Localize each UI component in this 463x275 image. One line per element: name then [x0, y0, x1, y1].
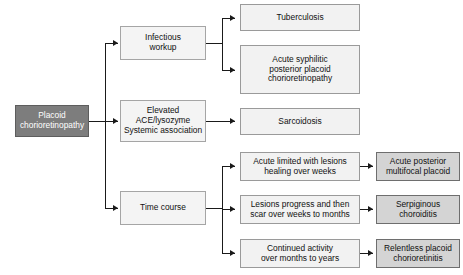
arrow-acute-limited-to-outcome: [368, 163, 373, 169]
arrow-continued-activity-to-outcome: [368, 250, 373, 256]
arrow-trunk-to-elevated-ace: [113, 118, 118, 124]
node-root-placoid-chorioretinopathy: Placoid chorioretinopathy: [15, 105, 89, 137]
connector-trunk-vertical: [105, 43, 106, 209]
connector-infectious-split: [222, 18, 223, 70]
arrow-time-course-to-acute-limited: [230, 163, 235, 169]
node-outcome-acute-posterior-multifocal-placoid: Acute posterior multifocal placoid: [376, 152, 460, 181]
node-time-course: Time course: [120, 191, 206, 225]
node-tuberculosis: Tuberculosis: [240, 4, 360, 31]
node-infectious-workup: Infectious workup: [120, 26, 206, 60]
arrow-trunk-to-infectious: [113, 40, 118, 46]
node-sarcoidosis: Sarcoidosis: [240, 108, 360, 135]
connector-infectious-stem: [206, 43, 222, 44]
arrow-elevated-ace-to-sarcoidosis: [230, 118, 235, 124]
flowchart-canvas: Placoid chorioretinopathy Infectious wor…: [0, 0, 463, 275]
connector-time-course-stem: [206, 208, 222, 209]
node-lesions-progress-scar: Lesions progress and then scar over week…: [240, 195, 360, 224]
arrow-infectious-to-tuberculosis: [230, 15, 235, 21]
arrow-infectious-to-syphilitic: [230, 67, 235, 73]
arrow-time-course-to-continued-activity: [230, 250, 235, 256]
node-outcome-relentless-placoid-chorioretinitis: Relentless placoid chorioretinitis: [376, 239, 460, 268]
node-acute-limited-lesions: Acute limited with lesions healing over …: [240, 152, 360, 181]
node-outcome-serpiginous-choroiditis: Serpiginous choroiditis: [376, 195, 460, 224]
node-continued-activity: Continued activity over months to years: [240, 239, 360, 268]
connector-root-stem: [89, 121, 105, 122]
arrow-time-course-to-lesions-progress: [230, 206, 235, 212]
arrow-trunk-to-time-course: [113, 205, 118, 211]
node-elevated-ace-lysozyme: Elevated ACE/lysozyme Systemic associati…: [120, 100, 206, 142]
arrow-lesions-progress-to-outcome: [368, 206, 373, 212]
node-acute-syphilitic-posterior-placoid-chorioretinopathy: Acute syphilitic posterior placoid chori…: [240, 45, 360, 94]
